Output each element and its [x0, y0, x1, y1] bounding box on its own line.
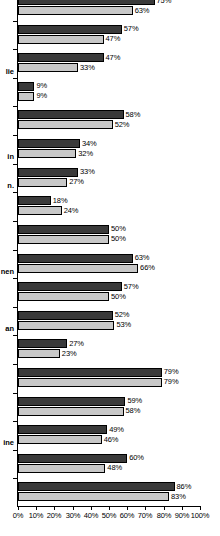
x-axis-tick: [200, 507, 201, 510]
x-axis-tick: [109, 507, 110, 510]
x-axis-ticks-layer: 0%10%20%30%40%50%60%70%80%90%100%: [0, 0, 220, 536]
bar-chart: 75%63%57%47%47%33%9%9%58%52%34%32%33%27%…: [0, 0, 220, 536]
x-axis-tick-label: 80%: [157, 512, 171, 520]
x-axis-tick: [145, 507, 146, 510]
x-axis-tick-label: 30%: [66, 512, 80, 520]
x-axis-tick: [36, 507, 37, 510]
x-axis-tick: [182, 507, 183, 510]
x-axis-tick-label: 60%: [120, 512, 134, 520]
x-axis-tick-label: 100%: [191, 512, 209, 520]
x-axis-tick: [127, 507, 128, 510]
x-axis-tick-label: 50%: [102, 512, 116, 520]
x-axis-tick: [54, 507, 55, 510]
x-axis-tick-label: 20%: [47, 512, 61, 520]
x-axis-tick-label: 90%: [175, 512, 189, 520]
x-axis-tick-label: 70%: [138, 512, 152, 520]
x-axis-tick: [73, 507, 74, 510]
x-axis-tick-label: 0%: [13, 512, 23, 520]
x-axis-tick: [164, 507, 165, 510]
x-axis-tick-label: 40%: [84, 512, 98, 520]
x-axis-tick: [18, 507, 19, 510]
x-axis-tick: [91, 507, 92, 510]
x-axis-tick-label: 10%: [29, 512, 43, 520]
